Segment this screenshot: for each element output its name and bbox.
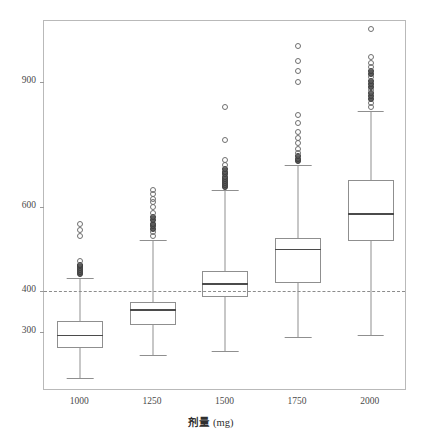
median-line [202,283,248,285]
whisker-cap-upper [357,111,384,112]
median-line [348,213,394,215]
whisker-upper [370,111,371,180]
box-plot-1500 [189,21,262,389]
outlier-point [368,54,374,60]
box-iqr [275,238,321,283]
whisker-cap-upper [67,278,94,279]
outlier-point [222,137,228,143]
x-axis-tick-label: 1000 [49,396,109,406]
x-axis-title-unit: (mg) [213,417,233,428]
outlier-point [222,104,228,110]
outlier-point [295,140,301,146]
whisker-cap-upper [140,240,167,241]
whisker-cap-lower [357,335,384,336]
outlier-point [295,120,301,126]
boxplot-figure: AUC0-24h(mg·h/L) 剂量 (mg) 300400600900100… [0,0,422,439]
outlier-point [77,227,83,233]
outlier-point [77,258,83,264]
x-axis-tick-label: 1500 [195,396,255,406]
box-iqr [348,180,394,241]
whisker-lower [152,325,153,356]
plot-area [44,21,405,389]
outlier-point [295,129,301,135]
whisker-lower [225,297,226,351]
outlier-point [77,233,83,239]
outlier-point [150,210,156,216]
x-axis-tick-label: 1250 [122,396,182,406]
x-axis-tick-label: 1750 [267,396,327,406]
median-line [275,249,321,251]
outlier-point [295,135,301,141]
whisker-lower [370,241,371,334]
y-axis-tick-mark [40,207,44,208]
whisker-lower [80,348,81,379]
outlier-point [295,43,301,49]
whisker-cap-lower [67,378,94,379]
y-axis-tick-mark [40,332,44,333]
median-line [57,335,103,337]
outlier-point [222,157,228,163]
whisker-cap-upper [285,165,312,166]
outlier-point [368,60,374,66]
whisker-upper [298,165,299,238]
plot-frame [43,20,406,390]
outlier-point [295,58,301,64]
box-plot-1750 [262,21,335,389]
whisker-cap-lower [212,351,239,352]
box-plot-1250 [117,21,190,389]
outlier-point [295,68,301,74]
x-axis-title-cn: 剂量 [188,417,210,428]
box-plot-1000 [44,21,117,389]
whisker-cap-upper [212,190,239,191]
y-axis-tick-label: 300 [0,325,36,335]
median-line [130,309,176,311]
box-iqr [130,302,176,325]
y-axis-tick-mark [40,82,44,83]
whisker-lower [298,283,299,337]
whisker-cap-lower [285,337,312,338]
x-axis-tick-label: 2000 [340,396,400,406]
y-axis-tick-label: 400 [0,284,36,294]
whisker-cap-lower [140,355,167,356]
outlier-point [77,221,83,227]
y-axis-tick-label: 900 [0,75,36,85]
whisker-upper [80,278,81,321]
box-plot-2000 [334,21,407,389]
y-axis-tick-mark [40,291,44,292]
outlier-point [295,112,301,118]
whisker-upper [225,190,226,270]
outlier-point [295,79,301,85]
x-axis-title: 剂量 (mg) [0,414,422,429]
whisker-upper [152,240,153,301]
outlier-point [368,26,374,32]
y-axis-tick-label: 600 [0,200,36,210]
outlier-point [150,187,156,193]
